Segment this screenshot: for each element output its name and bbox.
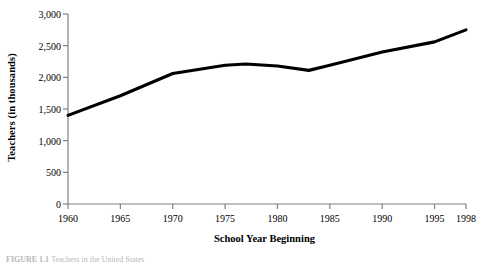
y-axis-tick-label: 1,000 <box>20 135 61 146</box>
axes-group <box>68 14 466 204</box>
x-axis-tick-label: 1990 <box>372 213 392 224</box>
line-chart-plot <box>0 0 487 265</box>
figure-caption-label: FIGURE 1.1 <box>6 255 49 264</box>
y-axis-tick-label: 500 <box>20 167 61 178</box>
figure-container: Teachers (in thousands) 05001,0001,5002,… <box>0 0 487 265</box>
x-axis-tick-label: 1995 <box>425 213 445 224</box>
x-axis-tick-label: 1985 <box>320 213 340 224</box>
y-axis-tick-label: 2,000 <box>20 72 61 83</box>
y-axis-tick-label: 2,500 <box>20 40 61 51</box>
x-axis-tick-label: 1998 <box>456 213 476 224</box>
x-axis-ticks <box>68 204 466 209</box>
x-axis-title: School Year Beginning <box>0 233 487 244</box>
x-axis-tick-label: 1975 <box>215 213 235 224</box>
y-axis-tick-label: 3,000 <box>20 9 61 20</box>
x-axis-tick-label: 1965 <box>110 213 130 224</box>
x-axis-tick-label: 1980 <box>267 213 287 224</box>
x-axis-tick-label: 1970 <box>163 213 183 224</box>
data-series-group <box>68 30 466 116</box>
figure-caption: FIGURE 1.1 Teachers in the United States <box>6 255 246 265</box>
y-axis-ticks <box>63 14 68 204</box>
figure-caption-body: Teachers in the United States <box>51 255 144 264</box>
y-axis-tick-label: 0 <box>20 199 61 210</box>
teachers-data-line <box>68 30 466 116</box>
y-axis-tick-label: 1,500 <box>20 104 61 115</box>
x-axis-tick-label: 1960 <box>58 213 78 224</box>
